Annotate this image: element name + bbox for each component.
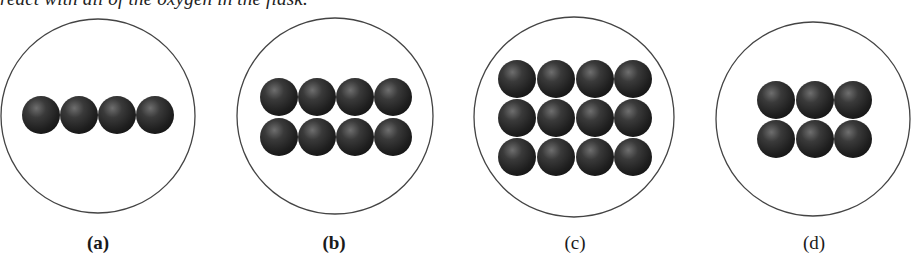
molecule-sphere [834,120,872,158]
panel-label-c: (c) [564,232,585,254]
molecule-sphere [537,99,575,137]
flask-panel-a [1,19,195,213]
molecule-sphere [336,118,374,156]
molecule-sphere [260,118,298,156]
molecule-sphere [796,81,834,119]
molecule-sphere [537,60,575,98]
molecule-sphere [22,96,60,134]
flask-outline [716,22,910,216]
molecule-sphere [614,99,652,137]
molecule-sphere [796,120,834,158]
flask-outline [237,18,433,214]
panels-root [1,17,910,217]
molecule-sphere [537,138,575,176]
molecule-sphere [614,138,652,176]
molecule-sphere [498,99,536,137]
molecule-sphere [757,120,795,158]
flask-panel-c [474,17,674,217]
flask-panel-d [716,22,910,216]
molecule-sphere [260,78,298,116]
molecule-sphere [576,99,614,137]
molecule-sphere [136,96,174,134]
flask-diagram [0,0,911,265]
molecule-sphere [336,78,374,116]
molecule-sphere [576,138,614,176]
molecule-sphere [374,118,412,156]
molecule-sphere [576,60,614,98]
flask-panel-b [237,18,433,214]
panel-label-d: (d) [803,232,825,254]
molecule-sphere [298,118,336,156]
molecule-sphere [834,81,872,119]
molecule-sphere [614,60,652,98]
molecule-sphere [374,78,412,116]
molecule-sphere [298,78,336,116]
molecule-sphere [498,138,536,176]
molecule-sphere [60,96,98,134]
panel-label-a: (a) [87,232,109,254]
molecule-sphere [98,96,136,134]
panel-label-b: (b) [322,232,345,254]
molecule-sphere [498,60,536,98]
molecule-sphere [757,81,795,119]
